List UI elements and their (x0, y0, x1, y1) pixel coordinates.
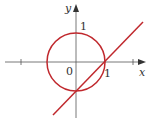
origin-label: 0 (66, 65, 73, 78)
diagram-canvas: y x 0 1 1 (0, 0, 152, 120)
y-axis-label: y (64, 2, 72, 15)
y-tick-label-1: 1 (80, 20, 87, 33)
y-axis-arrow-icon (73, 4, 79, 12)
x-axis-arrow-icon (138, 59, 146, 65)
x-tick-label-1: 1 (104, 67, 111, 80)
x-axis-label: x (139, 66, 146, 79)
